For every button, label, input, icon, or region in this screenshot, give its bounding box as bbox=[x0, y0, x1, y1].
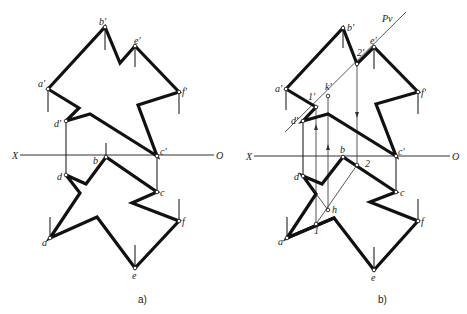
axis-label-x: X bbox=[11, 150, 19, 161]
label-1-prime: 1' bbox=[308, 91, 316, 102]
label-pv: Pv bbox=[381, 13, 393, 24]
label-b-prime: b' bbox=[347, 22, 355, 33]
label-f: f bbox=[182, 216, 186, 227]
label-f-prime: f' bbox=[182, 86, 188, 97]
axis-label-o: O bbox=[216, 150, 223, 161]
label-2-prime: 2' bbox=[357, 47, 365, 58]
top-view-polygon bbox=[287, 157, 418, 270]
label-c-prime: c' bbox=[160, 146, 167, 157]
axis-label-x: X bbox=[245, 151, 253, 162]
label-e-prime: e' bbox=[370, 35, 377, 46]
label-c: c bbox=[400, 187, 405, 198]
panel-a: X O b' e' a' f' d' c bbox=[11, 16, 223, 305]
label-2: 2 bbox=[365, 158, 370, 169]
label-e: e bbox=[132, 270, 137, 281]
label-1: 1 bbox=[314, 225, 319, 236]
axis-label-o: O bbox=[452, 151, 459, 162]
arrow-up-1 bbox=[314, 124, 318, 130]
projection-diagram: X O b' e' a' f' d' c bbox=[0, 0, 467, 314]
label-a-prime: a' bbox=[38, 78, 46, 89]
label-b: b bbox=[340, 144, 345, 155]
caption-a: a) bbox=[138, 294, 147, 305]
panel-b: X O Pv bbox=[245, 12, 459, 305]
arrow-up-k bbox=[326, 144, 330, 150]
label-c: c bbox=[160, 187, 165, 198]
label-f-prime: f' bbox=[421, 87, 427, 98]
label-d-prime: d' bbox=[54, 118, 62, 129]
label-f: f bbox=[421, 216, 425, 227]
front-view-polygon bbox=[286, 28, 418, 156]
label-d: d bbox=[57, 171, 63, 182]
label-b: b bbox=[93, 155, 98, 166]
top-view-polygon bbox=[50, 157, 179, 268]
label-k-prime: k' bbox=[325, 81, 332, 92]
arrow-down-2 bbox=[355, 112, 359, 118]
label-a-prime: a' bbox=[275, 83, 283, 94]
label-h: h bbox=[332, 204, 337, 215]
label-d-prime: d' bbox=[291, 115, 299, 126]
front-view-polygon bbox=[48, 27, 179, 156]
label-a: a bbox=[42, 237, 47, 248]
label-e-prime: e' bbox=[134, 35, 141, 46]
line-1-2 bbox=[316, 165, 357, 224]
label-e: e bbox=[371, 272, 376, 283]
caption-b: b) bbox=[378, 294, 387, 305]
label-b-prime: b' bbox=[99, 16, 107, 27]
label-a: a bbox=[278, 236, 283, 247]
label-c-prime: c' bbox=[398, 146, 405, 157]
